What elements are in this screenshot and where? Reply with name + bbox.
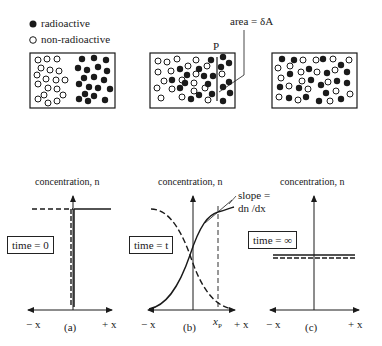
tangent-line <box>205 200 232 223</box>
legend-radioactive-label: radioactive <box>41 18 90 29</box>
open-particles-1 <box>34 56 68 106</box>
non-radioactive-curve <box>151 209 232 309</box>
graph-c-time-label: time = ∞ <box>248 231 297 249</box>
graph-c-pos-x: + x <box>348 319 362 330</box>
area-annotation: area = δA <box>230 16 273 27</box>
graph-a-time-label: time = 0 <box>7 236 54 254</box>
slope-label: slope = <box>238 190 270 201</box>
non-radioactive-legend-icon <box>30 37 37 44</box>
filled-particles-3 <box>277 56 350 104</box>
xp-sub: P <box>218 322 222 330</box>
radioactive-legend-icon <box>30 21 37 28</box>
filled-particles-1 <box>75 55 113 104</box>
graph-c-axis-title: concentration, n <box>280 177 344 187</box>
plane-p-label: P <box>213 41 219 52</box>
xp-label: xP <box>213 316 222 330</box>
graph-a-pos-x: + x <box>102 319 116 330</box>
diffusion-diagram <box>0 0 382 346</box>
graph-b-neg-x: − x <box>141 319 155 330</box>
graph-b-time-label: time = t <box>129 236 173 254</box>
graph-b-caption: (b) <box>183 322 196 333</box>
graph-b-pos-x: + x <box>234 319 248 330</box>
legend-non-radioactive-label: non-radioactive <box>41 34 110 45</box>
graph-a-neg-x: − x <box>26 319 40 330</box>
slope-formula: dn /dx <box>238 203 266 214</box>
graph-c-neg-x: − x <box>266 319 280 330</box>
graph-b-axis-title: concentration, n <box>158 177 222 187</box>
graph-c <box>270 196 359 310</box>
graph-a-caption: (a) <box>64 322 76 333</box>
graph-a-axis-title: concentration, n <box>35 177 99 187</box>
graph-c-caption: (c) <box>305 322 317 333</box>
